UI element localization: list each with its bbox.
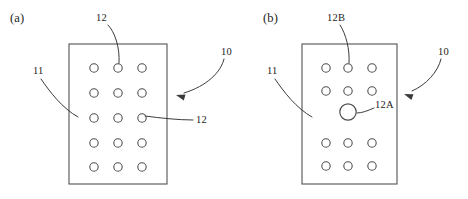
panel-b-leader-large-hole — [357, 108, 374, 113]
figure-drawing-canvas — [0, 0, 468, 199]
panel-b-hole-0 — [322, 64, 330, 72]
panel-a-leader-plate-left — [41, 79, 78, 117]
panel-b-arrowhead-assembly-right — [404, 94, 414, 100]
panel-a-hole-1 — [114, 64, 122, 72]
panel-b-callout-small-hole-label: 12B — [327, 13, 345, 24]
panel-a-hole-3 — [90, 89, 98, 97]
panel-a-hole-13 — [114, 163, 122, 171]
panel-b-hole-3 — [322, 87, 330, 95]
panel-a-arrowhead-assembly-right — [176, 95, 186, 101]
panel-a-leader-assembly-right — [184, 59, 224, 93]
panel-a-hole-10 — [114, 139, 122, 147]
panel-a-hole-2 — [138, 64, 146, 72]
panel-b-caption: (b) — [263, 12, 278, 25]
panel-b-hole-8 — [368, 139, 376, 147]
panel-a-hole-12 — [90, 163, 98, 171]
panel-b-hole-5 — [368, 87, 376, 95]
panel-a-hole-11 — [138, 139, 146, 147]
panel-b-callout-assembly-right-label: 10 — [438, 47, 449, 58]
panel-a-hole-0 — [90, 64, 98, 72]
panel-b-callout-plate-left-label: 11 — [267, 66, 278, 77]
panel-b-plate-outline — [302, 44, 397, 184]
panel-a-hole-14 — [138, 163, 146, 171]
panel-a-hole-8 — [138, 114, 146, 122]
panel-b-hole-4 — [344, 87, 352, 95]
panel-b-leader-assembly-right — [412, 59, 441, 91]
panel-a-hole-6 — [90, 114, 98, 122]
panel-b-hole-1 — [344, 64, 352, 72]
panel-b-callout-large-hole-label: 12A — [375, 100, 394, 111]
panel-b-leader-plate-left — [275, 79, 312, 117]
panel-b-hole-10 — [344, 162, 352, 170]
panel-a-leader-hole-right — [145, 116, 193, 120]
panel-a-hole-4 — [114, 89, 122, 97]
panel-a-group — [41, 25, 224, 184]
panel-b-hole-11 — [368, 162, 376, 170]
panel-a-callout-hole-top-label: 12 — [96, 13, 107, 24]
panel-b-large-hole-0 — [340, 104, 356, 120]
panel-a-caption: (a) — [10, 12, 24, 25]
patent-figure: (a) 12 11 10 12 (b) 12B 11 10 12A — [0, 0, 468, 199]
panel-a-hole-5 — [138, 89, 146, 97]
panel-a-hole-9 — [90, 139, 98, 147]
panel-a-callout-plate-left-label: 11 — [33, 66, 44, 77]
panel-b-hole-2 — [368, 64, 376, 72]
panel-a-callout-hole-right-label: 12 — [196, 115, 207, 126]
panel-b-hole-7 — [344, 139, 352, 147]
panel-b-hole-6 — [322, 139, 330, 147]
panel-a-callout-assembly-right-label: 10 — [221, 47, 232, 58]
panel-b-hole-9 — [322, 162, 330, 170]
panel-b-group — [275, 25, 441, 184]
panel-a-hole-7 — [114, 114, 122, 122]
